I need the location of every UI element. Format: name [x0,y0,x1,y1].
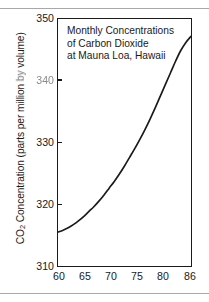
plot-area: Monthly Concentrations of Carbon Dioxide… [57,18,192,267]
y-tick-label-310: 310 [20,261,54,272]
x-tick-label-86: 86 [177,271,203,282]
chart-title-line-1: Monthly Concentrations [67,25,174,38]
x-tick-label-80: 80 [150,271,176,282]
x-tick-label-70: 70 [98,271,124,282]
chart-title-line-2: of Carbon Dioxide [67,38,174,51]
y-tick-label-350: 350 [20,13,54,24]
x-tick-label-75: 75 [124,271,150,282]
y-tick-label-340: 340 [20,75,54,86]
x-tick-label-65: 65 [72,271,98,282]
y-tick-label-320: 320 [20,199,54,210]
y-axis-label-prefix: CO [15,229,26,244]
co2-concentration-chart: CO2 Concentration (parts per million by … [0,0,209,302]
x-tick-label-60: 60 [46,271,72,282]
chart-title-block: Monthly Concentrations of Carbon Dioxide… [67,25,174,63]
y-axis-label-subscript: 2 [18,225,27,229]
y-tick-label-330: 330 [20,137,54,148]
y-axis-label-suffix: volume) [15,32,26,70]
chart-title-line-3: at Mauna Loa, Hawaii [67,50,174,63]
